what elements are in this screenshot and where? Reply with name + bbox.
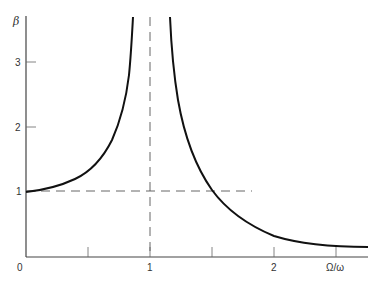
curve-below-resonance bbox=[26, 17, 133, 192]
y-label-3: 3 bbox=[15, 57, 21, 68]
x-label-2: 2 bbox=[271, 262, 277, 273]
origin-label: 0 bbox=[17, 262, 23, 273]
x-axis-label: Ω/ω bbox=[326, 262, 344, 273]
y-label-1: 1 bbox=[16, 186, 22, 197]
y-label-2: 2 bbox=[15, 122, 21, 133]
y-axis-label: β bbox=[12, 15, 19, 28]
resonance-chart: β 3 2 1 0 1 2 Ω/ω bbox=[0, 0, 380, 284]
curve-above-resonance bbox=[170, 17, 368, 247]
x-label-1: 1 bbox=[147, 262, 153, 273]
